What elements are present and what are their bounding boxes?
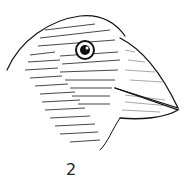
head-outline (7, 16, 125, 70)
figure-label: 2 (61, 160, 81, 179)
finch-head-illustration (0, 0, 189, 184)
eye-highlight (86, 47, 89, 50)
eye-pupil (80, 45, 90, 55)
throat-outline (100, 118, 120, 150)
beak-lower (115, 88, 178, 119)
